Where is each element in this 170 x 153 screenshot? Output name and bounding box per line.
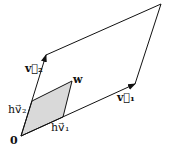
hv2-label: hv⃗₂ xyxy=(8,103,27,116)
w-label: w xyxy=(72,73,83,86)
parallelogram-diagram: 0 v⃗₁ v⃗₂ hv⃗₁ hv⃗₂ w xyxy=(0,0,170,153)
diagram-canvas: 0 v⃗₁ v⃗₂ hv⃗₁ hv⃗₂ w xyxy=(0,0,170,153)
v2-label: v⃗₂ xyxy=(24,62,43,75)
v1-label: v⃗₁ xyxy=(116,91,135,104)
top-edge xyxy=(46,4,161,55)
right-edge xyxy=(135,4,161,84)
hv1-label: hv⃗₁ xyxy=(51,121,70,134)
origin-label: 0 xyxy=(10,134,18,147)
